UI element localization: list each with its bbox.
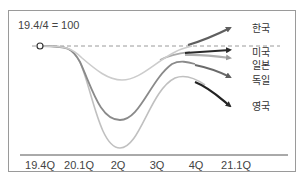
series-germany — [42, 46, 195, 120]
label-japan: 일본 — [252, 57, 270, 72]
label-korea: 한국 — [252, 20, 270, 35]
x-tick-2: 2Q — [111, 159, 126, 171]
x-tick-4: 4Q — [189, 159, 204, 171]
series-korea — [42, 46, 192, 80]
label-germany: 독일 — [252, 72, 270, 87]
x-tick-1: 20.1Q — [64, 159, 94, 171]
x-tick-3: 3Q — [150, 159, 165, 171]
start-point-marker — [37, 43, 43, 49]
x-tick-5: 21.1Q — [221, 159, 251, 171]
label-uk: 영국 — [252, 98, 270, 113]
x-tick-0: 19.4Q — [25, 159, 55, 171]
baseline-label: 19.4/4 = 100 — [18, 19, 79, 31]
